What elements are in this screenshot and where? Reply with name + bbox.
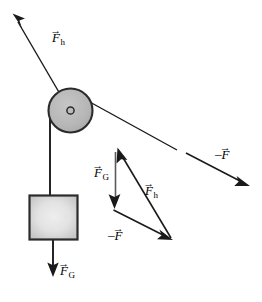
hanging-block [30,196,78,240]
pulley-wheel [49,89,93,133]
arrowhead-Fh-rope [13,14,26,28]
vector-arrow-icon: → [92,160,103,171]
vector-minusF-right-shaft [186,153,240,181]
label-FG-triangle-glyph: → F [94,166,102,179]
physics-diagram: → F h – → F → F G → F G → F h – → F [0,0,262,302]
label-FG-block: → F G [60,264,75,280]
label-Fh-rope-glyph: → F [52,31,60,44]
pulley-hub-icon [67,107,74,114]
label-minusF-right: – → F [215,148,229,161]
vector-arrow-icon: → [113,223,124,234]
vector-arrow-icon: → [50,25,61,36]
label-FG-triangle-subscript: G [102,172,109,182]
arrowhead-minusF-right [234,176,250,186]
label-Fh-rope: → F h [52,31,65,47]
label-minusF-triangle: – → F [108,229,122,242]
label-FG-block-subscript: G [68,270,75,280]
label-minusF-triangle-glyph: → F [115,229,123,242]
label-Fh-triangle-subscript: h [153,190,158,200]
rope-right-segment [88,101,177,150]
label-FG-block-glyph: → F [60,264,68,277]
vector-arrow-icon: → [220,142,231,153]
label-Fh-rope-subscript: h [60,37,65,47]
arrowhead-minusF-triangle [157,230,173,240]
label-Fh-triangle: → F h [145,184,158,200]
label-FG-triangle: → F G [94,166,109,182]
vector-arrow-icon: → [58,258,69,269]
arrowhead-FG-triangle [109,194,121,209]
label-minusF-right-glyph: → F [222,148,230,161]
vector-arrow-icon: → [143,178,154,189]
label-Fh-triangle-glyph: → F [145,184,153,197]
